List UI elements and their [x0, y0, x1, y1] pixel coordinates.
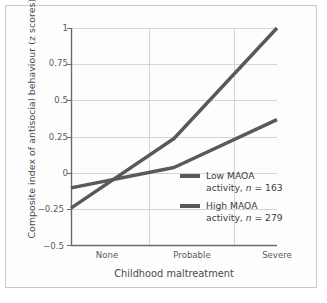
legend-label-high-maoa-line1: High MAOA	[206, 200, 257, 211]
figure: Composite index of antisocial behaviour …	[0, 0, 327, 303]
plot-area	[0, 0, 327, 303]
legend-label-low-maoa-line2-pre: activity,	[206, 182, 246, 193]
legend-swatch-low-maoa-icon	[180, 174, 200, 178]
legend-label-high-maoa-line2-pre: activity,	[206, 212, 246, 223]
legend-label-low-maoa: Low MAOA activity, n = 163	[206, 170, 283, 193]
legend-item-low-maoa: Low MAOA activity, n = 163	[180, 170, 283, 193]
legend-swatch-high-maoa-icon	[180, 204, 200, 208]
legend: Low MAOA activity, n = 163 High MAOA act…	[180, 170, 283, 230]
legend-item-high-maoa: High MAOA activity, n = 279	[180, 200, 283, 223]
legend-label-low-maoa-line1: Low MAOA	[206, 170, 254, 181]
y-tick-marks	[67, 29, 71, 246]
legend-label-high-maoa-line2-post: = 279	[252, 212, 283, 223]
legend-label-low-maoa-line2-post: = 163	[252, 182, 283, 193]
legend-label-high-maoa: High MAOA activity, n = 279	[206, 200, 283, 223]
